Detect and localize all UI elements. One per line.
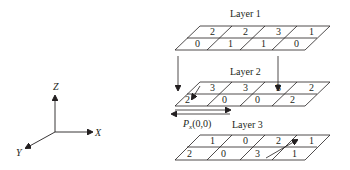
cell: 0: [243, 135, 248, 146]
layered-grid-diagram: Layer 1 2 2 3 1 0 1 1 0 Layer 2 3 3 3 2 …: [0, 0, 350, 170]
layer-1-label: Layer 1: [230, 8, 261, 19]
cell: 3: [210, 82, 215, 93]
cell: 1: [309, 135, 314, 146]
cell: 1: [261, 38, 266, 49]
cell: 3: [276, 26, 281, 37]
cell: 1: [228, 38, 233, 49]
cell: 2: [210, 26, 215, 37]
cell: 2: [290, 94, 295, 105]
cell: 2: [243, 26, 248, 37]
y-axis-label: Y: [16, 147, 23, 158]
axes: Z X Y: [16, 81, 102, 158]
cell: 0: [195, 38, 200, 49]
cell: 0: [255, 94, 260, 105]
cell: 3: [243, 82, 248, 93]
cell: 0: [222, 94, 227, 105]
cell: 2: [276, 135, 281, 146]
x-axis-label: X: [94, 127, 102, 138]
z-axis-label: Z: [53, 81, 59, 92]
cell: 3: [255, 148, 260, 159]
layer-2-label: Layer 2: [230, 66, 261, 77]
cell: 3: [276, 82, 281, 93]
cell: 1: [292, 148, 297, 159]
cell: 2: [187, 148, 192, 159]
cell: 1: [309, 26, 314, 37]
layer-3-label: Layer 3: [232, 119, 263, 130]
cell: 1: [210, 135, 215, 146]
pointer-label: Px(0,0): [182, 118, 211, 131]
layer-1: Layer 1 2 2 3 1 0 1 1 0: [175, 8, 330, 50]
layer-2: Layer 2 3 3 3 2 2 0 0 2: [175, 66, 330, 106]
cell: 0: [294, 38, 299, 49]
cell: 2: [185, 94, 190, 105]
cell: 0: [221, 148, 226, 159]
cell: 2: [309, 82, 314, 93]
